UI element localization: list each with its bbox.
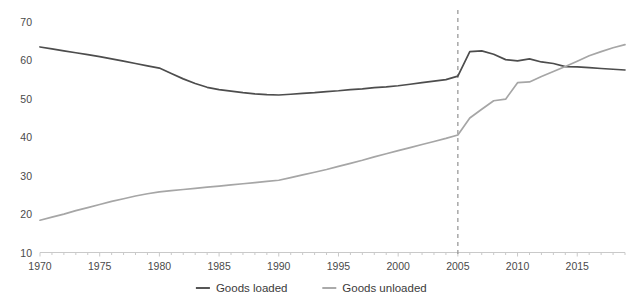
x-tick-label: 1975 bbox=[88, 260, 112, 272]
y-tick-label: 30 bbox=[20, 170, 32, 182]
y-tick-label: 50 bbox=[20, 93, 32, 105]
legend-label: Goods loaded bbox=[216, 282, 288, 294]
x-tick-label: 1985 bbox=[207, 260, 231, 272]
y-tick-label: 60 bbox=[20, 54, 32, 66]
x-tick-label: 1995 bbox=[327, 260, 351, 272]
x-tick-label: 1980 bbox=[148, 260, 172, 272]
x-tick-label: 1970 bbox=[28, 260, 52, 272]
y-tick-label: 40 bbox=[20, 131, 32, 143]
x-tick-label: 2000 bbox=[386, 260, 410, 272]
y-tick-label: 70 bbox=[20, 16, 32, 28]
x-tick-label: 1990 bbox=[267, 260, 291, 272]
x-tick-label: 2005 bbox=[446, 260, 470, 272]
legend-label: Goods unloaded bbox=[342, 282, 426, 294]
y-tick-label: 10 bbox=[20, 247, 32, 259]
chart-canvas: 70605040302010 1970197519801985199019952… bbox=[0, 0, 631, 308]
x-tick-label: 2010 bbox=[506, 260, 530, 272]
y-tick-label: 20 bbox=[20, 208, 32, 220]
line-chart: 70605040302010 1970197519801985199019952… bbox=[0, 0, 631, 308]
x-tick-label: 2015 bbox=[566, 260, 590, 272]
